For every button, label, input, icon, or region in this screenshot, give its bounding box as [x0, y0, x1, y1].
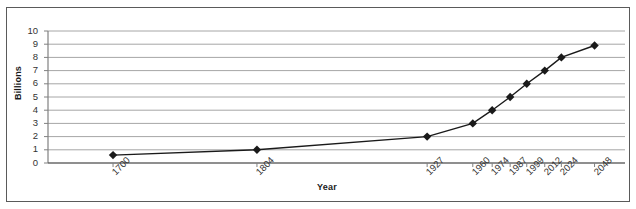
y-tick-label: 2	[16, 131, 38, 141]
x-axis-title: Year	[287, 182, 367, 192]
data-series-line	[113, 46, 595, 156]
data-point-marker	[253, 146, 261, 154]
data-point-marker	[423, 132, 431, 140]
y-tick-label: 10	[16, 26, 38, 36]
y-axis-title: Billions	[13, 43, 23, 123]
data-point-marker	[590, 41, 598, 49]
chart-plot-area	[0, 0, 636, 209]
y-tick-label: 1	[16, 144, 38, 154]
y-tick-label: 0	[16, 158, 38, 168]
data-point-marker	[469, 119, 477, 127]
data-point-marker	[109, 151, 117, 159]
population-growth-chart: 012345678910 170018041927196019741987199…	[0, 0, 636, 209]
